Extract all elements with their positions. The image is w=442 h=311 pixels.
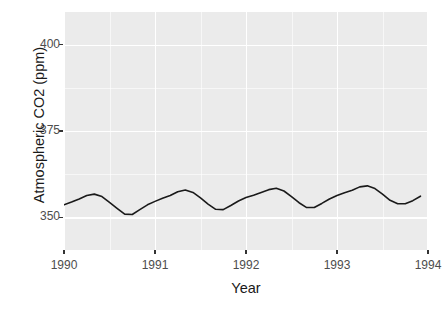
co2-series-line [64, 186, 420, 215]
x-axis-tick-mark [63, 250, 64, 254]
x-axis-tick-mark [245, 250, 246, 254]
y-axis-title: Atmospheric CO2 (ppm) [31, 6, 47, 244]
x-axis-tick-mark [154, 250, 155, 254]
x-axis-tick-label: 1990 [34, 258, 94, 272]
x-axis-tick-label: 1993 [307, 258, 367, 272]
x-axis-tick-label: 1992 [216, 258, 276, 272]
x-axis-tick-mark [336, 250, 337, 254]
x-axis-tick-mark [427, 250, 428, 254]
plot-panel [64, 12, 428, 250]
x-axis-tick-label: 1991 [125, 258, 185, 272]
x-axis-title: Year [64, 280, 428, 296]
co2-line-chart: the most regular geyser eruption interva… [0, 0, 442, 311]
x-axis-tick-label: 1994 [398, 258, 442, 272]
data-line-layer [64, 12, 428, 250]
